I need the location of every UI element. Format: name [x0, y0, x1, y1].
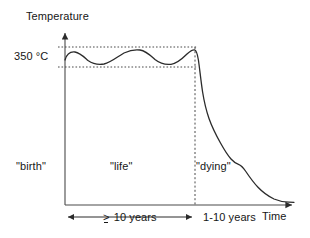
- y-axis-label: Temperature: [26, 10, 89, 22]
- temperature-time-diagram: Temperature Time 350 °C "birth" "life" "…: [0, 0, 310, 238]
- duration-label-life-text: 10 years: [114, 211, 157, 223]
- duration-label-life: > 10 years: [103, 211, 157, 223]
- duration-label-dying: 1-10 years: [203, 211, 256, 223]
- x-axis-label: Time: [262, 210, 286, 222]
- phase-label-birth: "birth": [16, 160, 46, 172]
- phase-label-dying: "dying": [196, 160, 231, 172]
- temperature-curve: [65, 50, 294, 203]
- plot-canvas: [0, 0, 310, 238]
- greater-or-equal-symbol: >: [103, 211, 111, 223]
- phase-label-life: "life": [110, 160, 132, 172]
- y-axis-tick-label-350c: 350 °C: [14, 50, 48, 62]
